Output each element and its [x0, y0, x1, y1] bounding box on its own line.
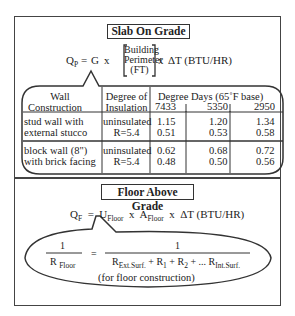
- delta-t-term: ΔT (BTU/HR): [180, 208, 244, 220]
- row1-wall: stud wall with external stucco: [24, 116, 87, 138]
- dd-5350: 5350: [207, 101, 228, 112]
- row1-5350-insulated: 0.53: [209, 127, 227, 138]
- a-subscript: Floor: [147, 214, 163, 223]
- row2-7433-insulated: 0.48: [157, 156, 175, 167]
- row1-7433-uninsulated: 1.15: [157, 116, 175, 127]
- row1-5350: 1.20 0.53: [209, 116, 227, 138]
- r-symbol: R: [50, 256, 57, 267]
- header-wall-line2: Construction: [28, 102, 82, 113]
- row2-insulation-line2: R=5.4: [113, 156, 139, 167]
- header-wall-line1: Wall: [50, 91, 70, 102]
- r2-subscript: 2: [184, 261, 188, 270]
- row2-2950-uninsulated: 0.72: [256, 145, 274, 156]
- row1-7433: 1.15 0.51: [157, 116, 175, 138]
- row2-5350-uninsulated: 0.68: [209, 145, 227, 156]
- times-sign-2: x: [169, 208, 175, 220]
- u-subscript: Floor: [107, 214, 123, 223]
- r-ext-subscript: Ext.Surf.: [119, 261, 146, 270]
- row2-wall: block wall (8") with brick facing: [24, 145, 96, 167]
- row2-7433-uninsulated: 0.62: [157, 145, 175, 156]
- header-wall: Wall Construction: [30, 91, 90, 113]
- r-equals-sign: =: [91, 248, 97, 260]
- row1-insulation: uninsulated R=5.4: [103, 116, 150, 138]
- equals-sign: =: [88, 208, 94, 220]
- row2-5350-insulated: 0.50: [209, 156, 227, 167]
- floor-construction-note: (for floor construction): [98, 272, 195, 284]
- r1-subscript: 1: [163, 261, 167, 270]
- header-insulation-line1: Degree of: [106, 91, 148, 102]
- dd-2950: 2950: [254, 101, 275, 112]
- row2-wall-line1: block wall (8"): [24, 145, 87, 156]
- header-insulation-line2: Insulation: [106, 102, 148, 113]
- row2-insulation: uninsulated R=5.4: [103, 145, 150, 167]
- r-int-subscript: Int.Surf.: [215, 261, 240, 270]
- row1-wall-line1: stud wall with: [24, 116, 84, 127]
- row2-insulation-line1: uninsulated: [103, 145, 151, 156]
- row1-2950-uninsulated: 1.34: [256, 116, 274, 127]
- row1-5350-uninsulated: 1.20: [209, 116, 227, 127]
- r2-symbol: + R: [169, 256, 184, 267]
- right-denominator: RExt.Surf. + R1 + R2 + ... RInt.Surf.: [112, 256, 240, 269]
- row1-2950: 1.34 0.58: [256, 116, 274, 138]
- floor-formula: QF = UFloor x AFloor x ΔT (BTU/HR): [70, 208, 244, 222]
- q-subscript: F: [78, 214, 82, 223]
- left-numerator: 1: [60, 240, 65, 252]
- row2-wall-line2: with brick facing: [24, 156, 96, 167]
- row1-wall-line2: external stucco: [24, 127, 87, 138]
- r-ext-symbol: R: [112, 256, 119, 267]
- row2-2950-insulated: 0.56: [256, 156, 274, 167]
- r-floor-subscript: Floor: [59, 261, 75, 270]
- row2-5350: 0.68 0.50: [209, 145, 227, 167]
- floor-above-grade-title: Floor Above Grade: [101, 184, 194, 200]
- r1-symbol: + R: [148, 256, 163, 267]
- q-symbol: Q: [70, 208, 78, 220]
- row2-7433: 0.62 0.48: [157, 145, 175, 167]
- left-denominator: R Floor: [50, 256, 75, 269]
- row1-2950-insulated: 0.58: [256, 127, 274, 138]
- row1-7433-insulated: 0.51: [157, 127, 175, 138]
- dd-7433: 7433: [155, 101, 176, 112]
- row1-insulation-line2: R=5.4: [113, 127, 139, 138]
- r-int-symbol: + ... R: [190, 256, 215, 267]
- times-sign: x: [129, 208, 135, 220]
- row2-2950: 0.72 0.56: [256, 145, 274, 167]
- header-insulation: Degree of Insulation: [103, 91, 150, 113]
- right-numerator: 1: [175, 240, 180, 252]
- row1-insulation-line1: uninsulated: [103, 116, 151, 127]
